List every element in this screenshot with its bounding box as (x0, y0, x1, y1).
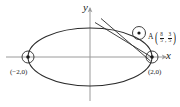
x-axis-label: x (166, 50, 171, 61)
y-axis-label: y (83, 2, 88, 13)
secant-line-lower (101, 19, 151, 62)
coordinate-comma: , (165, 37, 166, 44)
left-vertex-dot (26, 55, 30, 59)
point-a-dot (137, 31, 140, 34)
point-a-coordinates: ( 8 5 , 3 5 ) (154, 32, 177, 44)
diagram-canvas (0, 0, 180, 107)
ellipse-diagram: y x (−2,0) (2,0) A ( 8 5 , 3 5 ) (0, 0, 180, 107)
right-paren: ) (173, 32, 176, 43)
left-vertex-label: (−2,0) (10, 69, 27, 76)
point-a-y-denominator: 5 (168, 38, 172, 43)
right-vertex-label: (2,0) (148, 69, 161, 76)
point-a-label: A (148, 33, 153, 41)
point-a-x-fraction: 8 5 (160, 32, 164, 44)
point-a-x-denominator: 5 (160, 38, 164, 43)
point-a-y-numerator: 3 (168, 32, 172, 37)
secant-line-upper (95, 23, 153, 59)
right-vertex-dot (150, 55, 154, 59)
left-paren: ( (155, 32, 158, 43)
point-a-x-numerator: 8 (160, 32, 164, 37)
point-a-y-fraction: 3 5 (168, 32, 172, 44)
